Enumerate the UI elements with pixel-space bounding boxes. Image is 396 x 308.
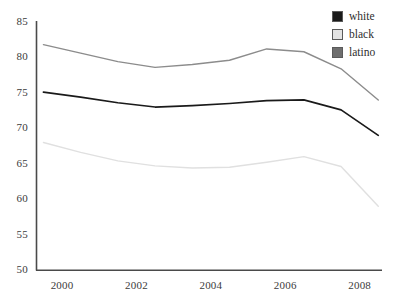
legend-swatch-icon <box>332 47 343 58</box>
y-tick-label: 55 <box>4 228 28 240</box>
chart-legend: whiteblacklatino <box>332 8 392 62</box>
y-tick-label: 85 <box>4 15 28 27</box>
x-tick-label: 2004 <box>191 279 231 291</box>
legend-item-latino: latino <box>332 44 392 61</box>
y-tick-label: 50 <box>4 263 28 275</box>
y-tick-label: 70 <box>4 121 28 133</box>
data-series-group <box>43 45 378 207</box>
legend-swatch-icon <box>332 11 343 22</box>
legend-swatch-icon <box>332 29 343 40</box>
x-tick-label: 2002 <box>116 279 156 291</box>
series-line-white <box>43 92 378 135</box>
y-tick-label: 75 <box>4 86 28 98</box>
y-tick-label: 65 <box>4 157 28 169</box>
legend-item-white: white <box>332 8 392 25</box>
axis-lines <box>36 21 382 271</box>
series-line-black <box>43 142 378 206</box>
legend-label: black <box>349 29 374 41</box>
legend-label: latino <box>349 47 375 59</box>
legend-label: white <box>349 11 375 23</box>
legend-item-black: black <box>332 26 392 43</box>
x-tick-label: 2008 <box>340 279 380 291</box>
line-chart: 5055606570758085 20002002200420062008 wh… <box>0 0 396 308</box>
y-tick-label: 60 <box>4 192 28 204</box>
x-tick-label: 2006 <box>265 279 305 291</box>
x-tick-label: 2000 <box>42 279 82 291</box>
series-line-latino <box>43 45 378 100</box>
y-tick-label: 80 <box>4 50 28 62</box>
